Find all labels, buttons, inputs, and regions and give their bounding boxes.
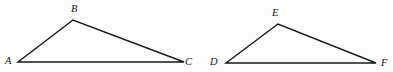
triangle-abc-outline (18, 20, 184, 62)
figure-container: A B C D E F (0, 0, 393, 72)
triangle-def: D E F (209, 7, 388, 68)
vertex-label-a: A (4, 55, 12, 66)
vertex-label-e: E (271, 7, 279, 18)
triangle-abc: A B C (4, 3, 193, 67)
vertex-label-f: F (380, 57, 388, 68)
vertex-label-c: C (185, 56, 193, 67)
triangles-diagram: A B C D E F (0, 0, 393, 72)
vertex-label-d: D (209, 56, 218, 67)
vertex-label-b: B (71, 3, 78, 14)
triangle-def-outline (226, 24, 376, 63)
